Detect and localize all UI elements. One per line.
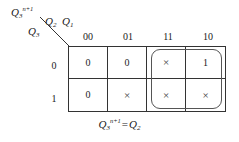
column-var-1-subscript: 2 [53, 21, 57, 29]
caption-rhs-base: Q [129, 118, 137, 130]
column-var-2-base: Q [62, 15, 70, 27]
kmap-cell-r0-c11: × [147, 47, 186, 79]
kmap-cell-r1-c10: × [186, 79, 225, 111]
karnaugh-map-figure: Q3n+1 Q2 Q1 Q3 00 01 11 10 0 1 0 0 × 1 0… [0, 0, 239, 142]
kmap-caption-expression: Q3n+1=Q2 [0, 119, 239, 130]
row-var-base: Q [28, 25, 36, 37]
caption-rhs-subscript: 2 [137, 124, 141, 132]
column-header-11: 11 [148, 32, 188, 42]
kmap-cell-r0-c01: 0 [108, 47, 147, 79]
next-state-base: Q [11, 6, 19, 18]
row-var-subscript: 3 [36, 31, 40, 39]
caption-lhs: Q3n+1 [98, 118, 120, 130]
row-variable-label-q3: Q3 [28, 26, 39, 37]
column-header-10: 10 [188, 32, 228, 42]
next-state-superscript: n+1 [22, 5, 33, 12]
column-variable-label-q2: Q2 [45, 16, 56, 27]
kmap-cell-r1-c11: × [147, 79, 186, 111]
caption-lhs-superscript: n+1 [110, 117, 121, 124]
caption-lhs-subscript: 3 [106, 124, 110, 132]
column-header-01: 01 [108, 32, 148, 42]
row-header-0: 0 [46, 61, 62, 71]
kmap-cell-r1-c00: 0 [69, 79, 108, 111]
caption-equals: = [121, 118, 129, 130]
karnaugh-map-grid: 0 0 × 1 0 × × × [68, 46, 226, 112]
kmap-cell-r0-c10: 1 [186, 47, 225, 79]
next-state-subscript: 3 [19, 12, 23, 20]
column-variable-label-q1: Q1 [62, 16, 73, 27]
column-var-1-base: Q [45, 15, 53, 27]
column-var-2-subscript: 1 [70, 21, 74, 29]
column-header-00: 00 [68, 32, 108, 42]
kmap-cell-r1-c01: × [108, 79, 147, 111]
row-header-1: 1 [46, 94, 62, 104]
kmap-cell-r0-c00: 0 [69, 47, 108, 79]
caption-rhs: Q2 [129, 118, 140, 130]
next-state-variable-label: Q3n+1 [11, 7, 33, 18]
